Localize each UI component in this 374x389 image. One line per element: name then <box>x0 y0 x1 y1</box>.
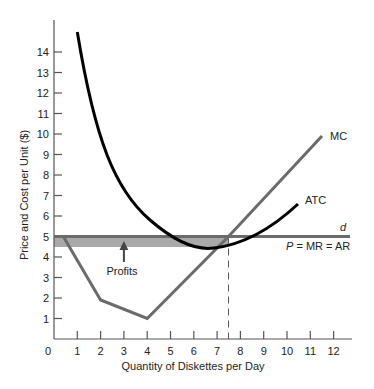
y-tick-label: 9 <box>43 149 49 161</box>
x-tick-label: 5 <box>167 345 173 357</box>
x-tick-label: 2 <box>98 345 104 357</box>
x-tick-label: 0 <box>45 345 51 357</box>
mr-ar-label: = MR = AR <box>293 240 350 252</box>
mc-curve <box>63 136 322 319</box>
y-tick-label: 4 <box>43 251 49 263</box>
x-tick-label: 12 <box>327 345 339 357</box>
y-tick-label: 7 <box>43 190 49 202</box>
x-tick-label: 10 <box>281 345 293 357</box>
y-tick-label: 13 <box>37 67 49 79</box>
y-tick-label: 12 <box>37 87 49 99</box>
y-tick-label: 11 <box>38 108 49 120</box>
x-tick-label: 3 <box>121 345 127 357</box>
profits-label: Profits <box>106 265 138 277</box>
y-tick-label: 14 <box>37 46 49 58</box>
x-tick-label: 7 <box>214 345 220 357</box>
x-tick-label: 4 <box>144 345 150 357</box>
x-tick-label: 11 <box>305 345 316 357</box>
d-label: d <box>340 221 347 233</box>
x-ticks <box>77 331 333 339</box>
atc-curve <box>77 32 298 248</box>
y-tick-label: 10 <box>37 128 49 140</box>
atc-label: ATC <box>305 194 326 206</box>
y-axis-title: Price and Cost per Unit ($) <box>18 130 30 260</box>
mc-label: MC <box>330 130 347 142</box>
x-axis-title: Quantity of Diskettes per Day <box>121 360 265 372</box>
y-tick-label: 1 <box>43 313 49 325</box>
y-tick-label: 3 <box>43 272 49 284</box>
y-tick-label: 5 <box>43 231 49 243</box>
x-tick-label: 9 <box>261 345 267 357</box>
cost-revenue-chart: 1 2 3 4 5 6 7 8 9 10 11 12 13 14 0 1 2 3… <box>0 0 374 389</box>
y-tick-label: 6 <box>43 210 49 222</box>
profits-shaded-region <box>54 237 229 248</box>
y-ticks <box>54 52 62 319</box>
y-tick-label: 8 <box>43 169 49 181</box>
y-tick-label: 2 <box>43 292 49 304</box>
x-tick-label: 1 <box>74 345 80 357</box>
x-tick-label: 8 <box>237 345 243 357</box>
x-tick-label: 6 <box>191 345 197 357</box>
p-mr-ar-label: P = MR = AR <box>286 240 350 252</box>
